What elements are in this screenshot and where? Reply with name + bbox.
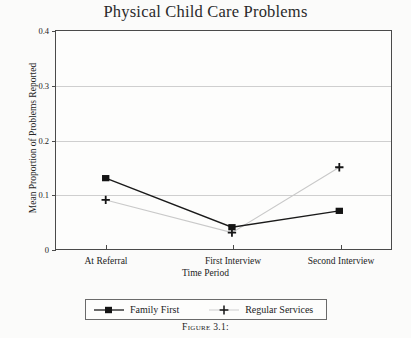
series-regular-services [102, 163, 344, 237]
plot-area: 0.4 0.3 0.2 0.1 0 At Referral First Inte… [55, 30, 392, 250]
x-axis-label: Time Period [0, 268, 411, 278]
figure-caption: Figure 3.1: [0, 322, 411, 332]
legend-key-family-first [94, 304, 124, 316]
x-tick-label-first-interview: First Interview [205, 256, 261, 266]
data-point-family-first-2 [336, 208, 343, 214]
data-point-regular-services-2 [335, 163, 343, 171]
y-tick-label-0.4: 0.4 [38, 26, 49, 36]
y-tick-mark-0 [52, 250, 56, 251]
legend-label-regular-services: Regular Services [245, 304, 313, 315]
x-tick-label-second-interview: Second Interview [308, 256, 375, 266]
legend-key-regular-services [209, 304, 239, 316]
chart-legend: Family First Regular Services [85, 299, 327, 320]
legend-item-regular-services[interactable]: Regular Services [209, 304, 313, 316]
data-point-family-first-0 [102, 175, 109, 181]
data-point-family-first-1 [228, 224, 235, 230]
legend-item-family-first[interactable]: Family First [94, 304, 179, 316]
y-tick-label-0: 0 [45, 245, 49, 255]
y-axis-label: Mean Proportion of Problems Reported [28, 33, 38, 243]
series-family-first [102, 175, 343, 230]
y-tick-label-0.3: 0.3 [38, 81, 49, 91]
chart-title: Physical Child Care Problems [0, 2, 411, 22]
y-tick-label-0.1: 0.1 [38, 190, 49, 200]
x-tick-label-at-referral: At Referral [85, 256, 128, 266]
series-layer [56, 31, 391, 249]
legend-label-family-first: Family First [130, 304, 179, 315]
y-tick-label-0.2: 0.2 [38, 136, 49, 146]
figure-container: Physical Child Care Problems Mean Propor… [0, 0, 411, 338]
data-point-regular-services-0 [102, 196, 110, 204]
